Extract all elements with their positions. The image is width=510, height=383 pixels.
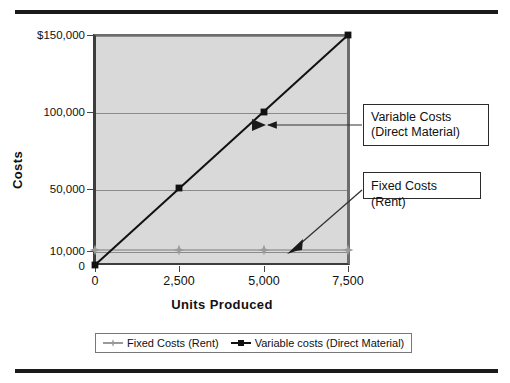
y-tick-mark — [87, 35, 93, 36]
x-tick-label: 0 — [50, 274, 140, 288]
gridline — [96, 190, 347, 191]
y-tick-label: 50,000 — [5, 183, 85, 195]
bottom-divider-rule — [15, 369, 498, 373]
annotation-variable-costs: Variable Costs (Direct Material) — [363, 104, 489, 146]
legend-item-label: Variable costs (Direct Material) — [255, 337, 405, 349]
legend-item-fixed-costs: Fixed Costs (Rent) — [103, 337, 219, 349]
x-tick-label: 7,500 — [303, 274, 393, 288]
legend-item-label: Fixed Costs (Rent) — [127, 337, 219, 349]
annotation-fixed-costs: Fixed Costs (Rent) — [363, 172, 481, 199]
y-tick-label: 0 — [5, 260, 85, 272]
x-tick-label: 5,000 — [219, 274, 309, 288]
y-tick-mark — [87, 189, 93, 190]
cost-behavior-chart: Costs $150,000 100,000 50,000 10,000 0 0… — [0, 0, 510, 383]
y-axis-ticks: $150,000 100,000 50,000 10,000 0 — [0, 0, 85, 383]
x-tick-mark — [264, 266, 265, 272]
gridline — [96, 252, 347, 253]
y-tick-label: 100,000 — [5, 106, 85, 118]
x-tick-mark — [348, 266, 349, 272]
y-tick-label: 10,000 — [5, 245, 85, 257]
x-tick-label: 2,500 — [134, 274, 224, 288]
top-divider-rule — [15, 10, 498, 14]
x-tick-mark — [95, 266, 96, 272]
gridline — [96, 113, 347, 114]
chart-legend: Fixed Costs (Rent) Variable costs (Direc… — [95, 333, 412, 353]
x-axis-title: Units Produced — [93, 297, 351, 312]
gridline — [96, 36, 347, 37]
plot-area — [93, 34, 350, 265]
y-tick-mark — [87, 112, 93, 113]
legend-line-star-icon — [103, 338, 123, 348]
legend-item-variable-costs: Variable costs (Direct Material) — [231, 337, 405, 349]
y-tick-mark — [87, 251, 93, 252]
y-tick-label: $150,000 — [5, 29, 85, 41]
legend-line-square-icon — [231, 338, 251, 348]
x-tick-mark — [179, 266, 180, 272]
